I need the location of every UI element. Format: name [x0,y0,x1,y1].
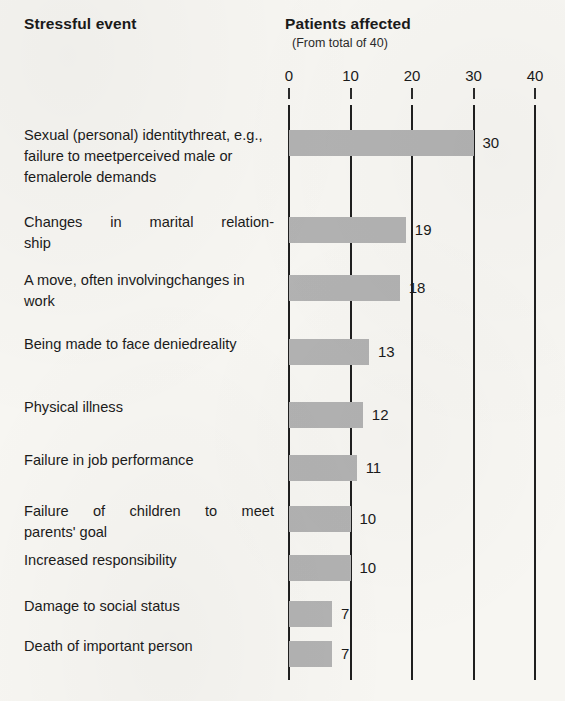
category-label-line: Damage to social status [24,598,180,614]
bar-value-label: 10 [360,510,377,527]
bar [289,217,406,243]
category-label: Sexual (personal) identitythreat, e.g., … [24,125,274,188]
category-label-line: role demands [68,169,156,185]
category-label: Failure in job performance [24,450,274,471]
category-label: Changes in marital relation-ship [24,212,274,254]
bar [289,641,332,667]
category-label-line: Failure in job performance [24,452,194,468]
category-label: Death of important person [24,636,274,657]
category-label-line: A move, often involving [24,272,174,288]
chart-page: Stressful event Patients affected (From … [0,0,565,701]
category-label-line: Changes in marital relation- [24,212,274,233]
bar-value-label: 7 [341,645,349,662]
category-label: Increased responsibility [24,550,274,571]
bar [289,455,357,481]
bar [289,555,351,581]
bar-value-label: 10 [360,559,377,576]
category-label: Being made to face deniedreality [24,334,274,355]
category-label-line: Physical illness [24,399,123,415]
bar-value-label: 13 [378,343,395,360]
bar [289,402,363,428]
category-label-line: parents' goal [24,522,274,543]
category-label-line: Being made to face denied [24,336,198,352]
category-label: Failure of children to meetparents' goal [24,501,274,543]
category-label-line: Increased responsibility [24,552,177,568]
category-label-line: reality [198,336,237,352]
bar-value-label: 12 [372,406,389,423]
bar [289,130,474,156]
bar [289,339,369,365]
category-label: Damage to social status [24,596,274,617]
bar-value-label: 11 [366,459,382,476]
category-label-line: ship [24,233,274,254]
bar [289,601,332,627]
bar [289,275,400,301]
plot-area: Sexual (personal) identitythreat, e.g., … [0,0,565,701]
category-label-line: Death of important person [24,638,193,654]
category-label-line: Failure of children to meet [24,501,274,522]
bar-value-label: 30 [483,134,500,151]
category-label-line: Sexual (personal) identity [24,127,189,143]
category-label: Physical illness [24,397,274,418]
bar-value-label: 7 [341,605,349,622]
bar [289,506,351,532]
category-label: A move, often involvingchanges in work [24,270,274,312]
bar-value-label: 19 [415,221,432,238]
bar-value-label: 18 [409,279,426,296]
